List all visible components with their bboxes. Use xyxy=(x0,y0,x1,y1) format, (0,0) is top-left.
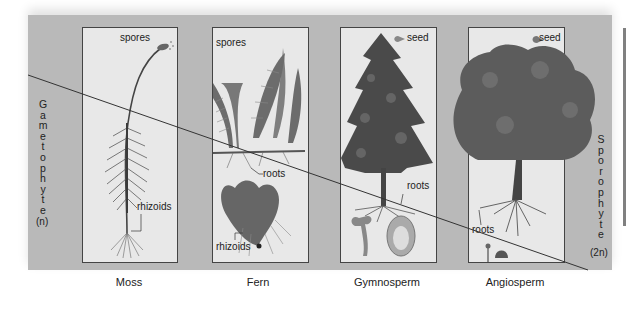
fern-card: spores roots rhizoids xyxy=(212,27,309,263)
plant-name-fern: Fern xyxy=(198,276,318,288)
gymnosperm-roots-callout: roots xyxy=(407,180,429,191)
gametophyte-label: G a m e t o p h y t e xyxy=(37,99,49,216)
moss-spores-callout: spores xyxy=(120,32,150,43)
letter: p xyxy=(595,187,607,198)
letter: G xyxy=(37,99,49,110)
fern-spores-callout: spores xyxy=(216,37,246,48)
plant-name-moss: Moss xyxy=(69,276,189,288)
letter: e xyxy=(595,229,607,240)
fern-illustration xyxy=(213,28,308,262)
letter: o xyxy=(37,152,49,163)
sporophyte-label: S p o r o p h y t e xyxy=(595,134,607,240)
letter: e xyxy=(37,205,49,216)
fern-rhizoids-callout: rhizoids xyxy=(216,241,250,252)
gymnosperm-seed-callout: seed xyxy=(407,32,429,43)
moss-rhizoids-callout: rhizoids xyxy=(137,201,171,212)
gymnosperm-card: seed roots xyxy=(340,27,437,263)
letter: S xyxy=(595,134,607,145)
angiosperm-card: seed roots xyxy=(468,27,565,263)
plant-name-gymnosperm: Gymnosperm xyxy=(327,276,447,288)
moss-card: spores rhizoids xyxy=(82,27,178,263)
plant-name-angiosperm: Angiosperm xyxy=(455,276,575,288)
fern-roots-callout: roots xyxy=(263,168,285,179)
sporophyte-ploidy: (2n) xyxy=(590,247,608,258)
cropped-adjacent-text xyxy=(622,28,632,226)
gymnosperm-illustration xyxy=(341,28,436,262)
moss-illustration xyxy=(83,28,177,262)
gametophyte-ploidy: (n) xyxy=(36,216,48,227)
angiosperm-roots-callout: roots xyxy=(472,224,494,235)
angiosperm-seed-callout: seed xyxy=(539,32,561,43)
